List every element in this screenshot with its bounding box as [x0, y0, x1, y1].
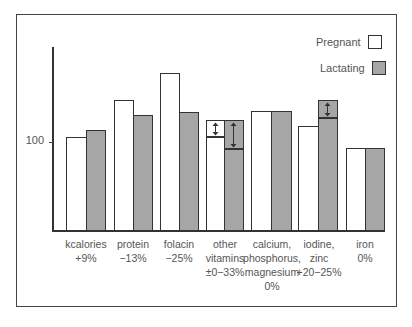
other-vitamins-lactating-base-line	[224, 148, 244, 150]
bar-kcalories-pregnant	[66, 137, 87, 232]
category-label-iodine: iodine, zinc +20−25%	[292, 237, 346, 279]
category-label-folacin: folacin −25%	[154, 237, 204, 265]
legend-lactating: Lactating	[320, 61, 386, 75]
category-label-kcalories: kcalories +9%	[58, 237, 114, 265]
double-arrow-icon	[229, 122, 238, 148]
category-label-protein: protein −13%	[108, 237, 158, 265]
bar-kcalories-lactating	[86, 130, 106, 232]
y-tick-100	[49, 142, 54, 143]
category-label-iron: iron 0%	[346, 237, 384, 265]
bar-protein-lactating	[133, 115, 153, 232]
double-arrow-icon	[211, 122, 220, 136]
bar-folacin-lactating	[179, 112, 199, 232]
x-axis-baseline	[52, 230, 385, 232]
double-arrow-icon	[323, 102, 332, 117]
bar-iron-pregnant	[346, 148, 366, 232]
bar-calcium-lactating	[271, 111, 292, 232]
bar-iron-lactating	[365, 148, 385, 232]
legend-pregnant-label: Pregnant	[316, 36, 361, 48]
y-tick-label-100: 100	[14, 134, 44, 146]
bar-calcium-pregnant	[251, 111, 272, 232]
legend-lactating-swatch	[372, 61, 386, 75]
bar-iodine-pregnant	[298, 126, 319, 232]
iodine-lactating-base-line	[318, 117, 338, 119]
bar-iodine-lactating	[318, 100, 338, 232]
legend-lactating-label: Lactating	[320, 62, 365, 74]
bar-folacin-pregnant	[160, 73, 180, 232]
y-axis	[52, 47, 54, 232]
other-vitamins-pregnant-base-line	[206, 136, 225, 138]
bar-protein-pregnant	[114, 100, 134, 232]
legend-pregnant: Pregnant	[316, 35, 382, 49]
legend-pregnant-swatch	[368, 35, 382, 49]
